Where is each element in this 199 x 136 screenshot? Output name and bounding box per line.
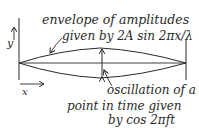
oscillation-label-line1: oscillation of a	[107, 83, 196, 97]
oscillation-label-line2: point in time given	[67, 99, 182, 113]
envelope-label-line2: given by 2A sin 2πx/λ	[62, 29, 193, 43]
standing-wave-diagram: envelope of amplitudes given by 2A sin 2…	[0, 0, 199, 136]
envelope-pointer-arrow	[50, 38, 62, 53]
x-axis-label: x	[22, 86, 28, 97]
y-axis-label: y	[6, 37, 14, 50]
envelope-label-line1: envelope of amplitudes	[42, 12, 189, 27]
diagram-canvas: envelope of amplitudes given by 2A sin 2…	[0, 0, 199, 136]
oscillation-label-line3: by cos 2πft	[108, 113, 175, 127]
